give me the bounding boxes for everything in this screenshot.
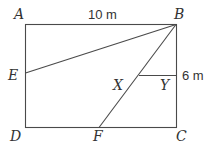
label-x: X — [112, 77, 124, 93]
segment-be — [26, 25, 177, 74]
label-c: C — [176, 128, 187, 144]
geometry-diagram: A B C D E F X Y 10 m 6 m — [0, 0, 210, 150]
measure-by: 6 m — [182, 68, 204, 83]
label-b: B — [173, 6, 184, 22]
label-e: E — [7, 67, 18, 83]
label-f: F — [92, 128, 104, 144]
measure-ab: 10 m — [88, 7, 117, 22]
label-d: D — [9, 128, 21, 144]
label-y: Y — [160, 77, 171, 93]
label-a: A — [12, 6, 24, 22]
